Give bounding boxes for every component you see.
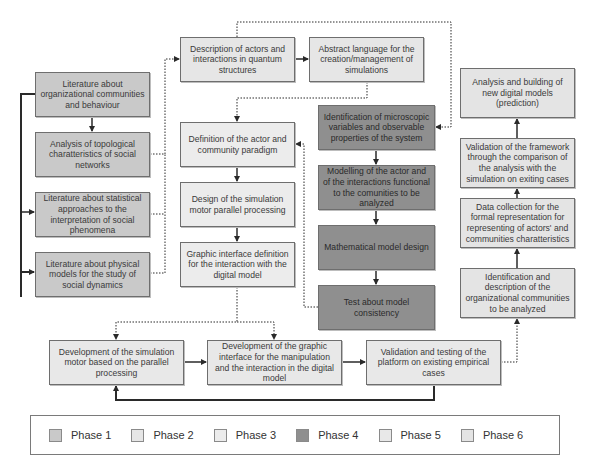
legend-label: Phase 1 <box>71 429 111 441</box>
phase-2-swatch <box>131 429 144 442</box>
node-mathematical-model: Mathematical model design <box>318 225 435 270</box>
node-framework-validation: Validation of the framework through the … <box>460 138 575 188</box>
node-abstract-language: Abstract language for the creation/manag… <box>309 37 424 82</box>
phase-3-swatch <box>214 429 227 442</box>
phase-6-swatch <box>461 429 474 442</box>
node-develop-graphic-interface: Development of the graphic interface for… <box>207 340 342 385</box>
node-topological-analysis: Analysis of topological charatteristics … <box>35 132 150 177</box>
legend-label: Phase 2 <box>153 429 193 441</box>
node-quantum-structures: Description of actors and interactions i… <box>180 37 295 82</box>
legend-item-phase-1: Phase 1 <box>49 429 111 442</box>
node-identify-communities: Identification and description of the or… <box>460 268 575 318</box>
node-data-collection: Data collection for the formal represent… <box>460 198 575 248</box>
legend: Phase 1 Phase 2 Phase 3 Phase 4 Phase 5 … <box>30 415 560 455</box>
node-literature-organizational: Literature about organizational communit… <box>35 72 150 117</box>
node-literature-statistical: Literature about statistical approaches … <box>35 192 150 237</box>
phase-5-swatch <box>379 429 392 442</box>
phase-4-swatch <box>296 429 309 442</box>
node-literature-physical: Literature about physical models for the… <box>35 252 150 297</box>
legend-label: Phase 4 <box>318 429 358 441</box>
legend-item-phase-3: Phase 3 <box>214 429 276 442</box>
phase-1-swatch <box>49 429 62 442</box>
legend-item-phase-4: Phase 4 <box>296 429 358 442</box>
legend-label: Phase 3 <box>236 429 276 441</box>
flow-diagram: Literature about organizational communit… <box>0 0 592 470</box>
legend-label: Phase 6 <box>483 429 523 441</box>
node-actor-modelling: Modelling of the actor and of the intera… <box>318 165 435 210</box>
node-model-consistency: Test about model consistency <box>318 285 435 330</box>
node-microscopic-variables: Identification of microscopic variables … <box>318 105 435 150</box>
node-graphic-interface-definition: Graphic interface definition for the int… <box>180 242 295 287</box>
node-prediction-models: Analysis and building of new digital mod… <box>460 68 575 118</box>
legend-item-phase-2: Phase 2 <box>131 429 193 442</box>
node-simulation-design: Design of the simulation motor parallel … <box>180 182 295 227</box>
node-actor-paradigm: Definition of the actor and community pa… <box>180 122 295 167</box>
legend-item-phase-5: Phase 5 <box>379 429 441 442</box>
node-develop-simulation-motor: Development of the simulation motor base… <box>49 340 184 385</box>
legend-label: Phase 5 <box>401 429 441 441</box>
node-validation-testing: Validation and testing of the platform o… <box>366 340 501 385</box>
legend-item-phase-6: Phase 6 <box>461 429 523 442</box>
